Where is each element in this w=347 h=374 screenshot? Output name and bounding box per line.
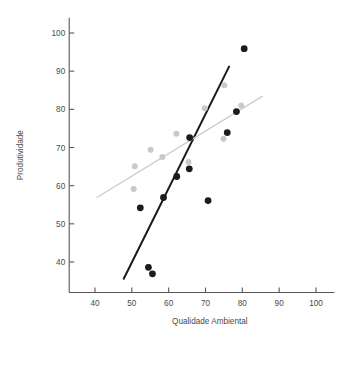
x-tick-label: 100: [309, 299, 323, 308]
data-point: [173, 173, 180, 180]
x-tick-label: 90: [275, 299, 285, 308]
data-point: [186, 159, 192, 165]
x-tick-label: 60: [164, 299, 174, 308]
x-axis-title: Qualidade Ambiental: [172, 317, 248, 326]
data-point: [238, 103, 244, 109]
data-point: [137, 204, 144, 211]
regression-line-dark-fit: [124, 67, 229, 279]
data-point: [202, 105, 208, 111]
data-point: [221, 82, 227, 88]
x-tick-label: 80: [238, 299, 248, 308]
y-axis: 405060708090100: [52, 18, 75, 293]
data-point: [159, 154, 165, 160]
y-tick-label: 70: [56, 144, 66, 153]
data-point: [224, 129, 231, 136]
data-points-layer: [131, 45, 248, 277]
data-point: [131, 186, 137, 192]
x-tick-label: 50: [127, 299, 137, 308]
x-tick-group: 405060708090100: [90, 288, 323, 308]
data-point: [132, 163, 138, 169]
y-tick-label: 80: [56, 105, 66, 114]
data-point: [173, 131, 179, 137]
y-tick-group: 405060708090100: [52, 29, 75, 267]
x-tick-label: 70: [201, 299, 211, 308]
data-point: [221, 136, 227, 142]
data-point: [149, 270, 156, 277]
data-point: [241, 45, 248, 52]
data-point: [160, 194, 167, 201]
x-tick-label: 40: [90, 299, 100, 308]
data-point: [186, 134, 193, 141]
data-point: [145, 264, 152, 271]
scatter-plot-figure: 405060708090100 405060708090100 Qualidad…: [0, 0, 347, 374]
x-axis: 405060708090100: [69, 288, 334, 308]
y-tick-label: 60: [56, 182, 66, 191]
data-point: [205, 197, 212, 204]
plot-canvas: 405060708090100 405060708090100 Qualidad…: [0, 0, 347, 374]
regression-lines-layer: [97, 67, 262, 279]
y-tick-label: 90: [56, 67, 66, 76]
data-point: [233, 108, 240, 115]
data-point: [186, 165, 193, 172]
y-tick-label: 40: [56, 258, 66, 267]
y-axis-title: Produtividade: [16, 130, 25, 181]
y-tick-label: 100: [52, 29, 66, 38]
y-tick-label: 50: [56, 220, 66, 229]
data-point: [148, 147, 154, 153]
